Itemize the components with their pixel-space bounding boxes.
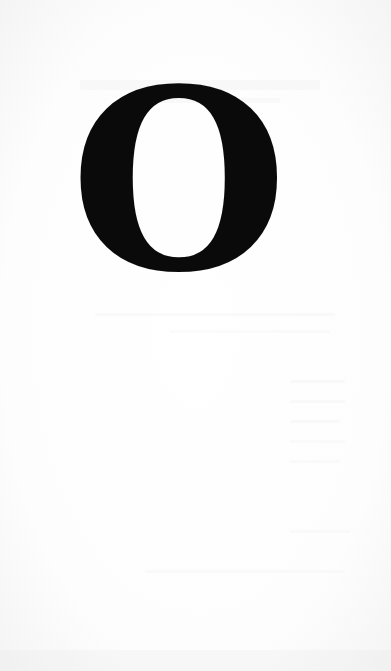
drop-cap-letter: O [84,60,274,300]
scanned-page: O [0,0,391,671]
faded-text-line [290,530,350,533]
faded-text-line [290,460,340,463]
faded-text-line [290,400,345,403]
faded-text-line [290,440,345,443]
faded-text-line [145,570,345,573]
faded-text-line [290,420,340,423]
faded-text-line [290,380,345,383]
faded-text-line [170,330,330,333]
page-bottom-shadow [0,650,391,671]
